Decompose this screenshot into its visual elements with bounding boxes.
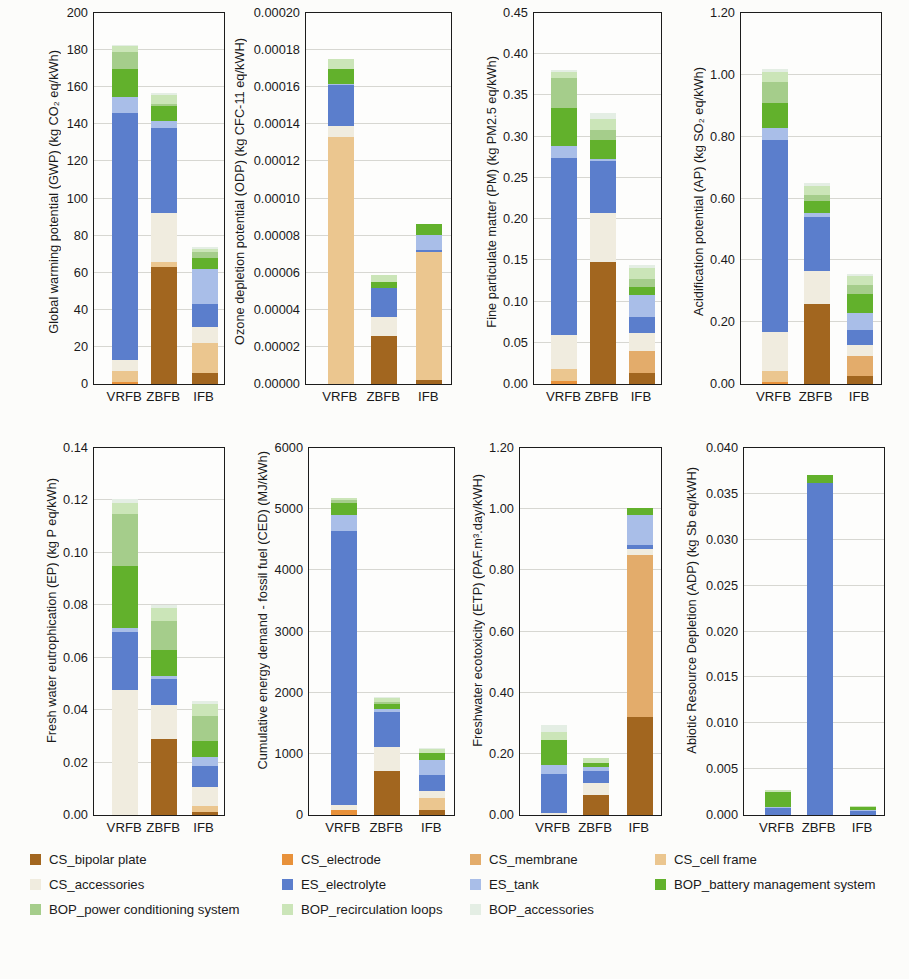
- x-axis-labels: VRFBZBFBIFB: [533, 385, 660, 407]
- bar-vrfb: [541, 448, 567, 815]
- legend-label: ES_tank: [489, 877, 539, 892]
- segment-bop-battery-management-system: [765, 792, 791, 807]
- segment-es-electrolyte: [328, 85, 354, 126]
- segment-cs-bipolar-plate: [192, 373, 218, 384]
- y-tick-label: 120: [67, 153, 88, 168]
- segment-bop-recirculation-loops: [371, 275, 397, 282]
- y-tick-label: 0.40: [710, 252, 735, 267]
- y-tick-label: 2000: [275, 684, 303, 699]
- legend-swatch-icon: [470, 904, 481, 915]
- bar-zbfb: [151, 13, 177, 384]
- segment-bop-accessories: [541, 725, 567, 733]
- y-axis-ticks: 0100020003000400050006000: [272, 447, 308, 814]
- x-axis-labels: VRFBZBFBIFB: [743, 816, 883, 838]
- x-tick-label-zbfb: ZBFB: [799, 389, 833, 404]
- y-axis-label: Global warming potential (GWP) (kg CO₂ e…: [45, 50, 62, 334]
- segment-bop-power-conditioning-system: [762, 82, 788, 104]
- segment-bop-recirculation-loops: [328, 59, 354, 68]
- y-axis-ticks: 0.000.200.400.600.801.001.20: [487, 447, 519, 814]
- y-axis-label: Fresh water eutrophication (EP) (kg P eq…: [43, 478, 60, 743]
- legend-swatch-icon: [30, 879, 41, 890]
- legend-swatch-icon: [30, 854, 41, 865]
- legend-column: CS_bipolar plateCS_accessoriesBOP_power …: [30, 852, 282, 917]
- segment-bop-recirculation-loops: [151, 95, 177, 104]
- bar-vrfb: [331, 448, 357, 815]
- segment-bop-recirculation-loops: [112, 503, 138, 513]
- bar-vrfb: [112, 448, 138, 815]
- segment-bop-power-conditioning-system: [629, 279, 655, 286]
- segment-cs-accessories: [541, 813, 567, 815]
- segment-bop-battery-management-system: [416, 224, 442, 235]
- bar-zbfb: [590, 13, 616, 384]
- bar-zbfb: [374, 448, 400, 815]
- bar-zbfb: [371, 13, 397, 384]
- x-axis-labels: VRFBZBFBIFB: [519, 816, 660, 838]
- bar-vrfb: [551, 13, 577, 384]
- segment-cs-accessories: [583, 783, 609, 795]
- segment-bop-recirculation-loops: [192, 704, 218, 716]
- segment-cs-bipolar-plate: [371, 336, 397, 384]
- x-tick-label-ifb: IFB: [849, 389, 870, 404]
- segment-es-electrolyte: [765, 808, 791, 815]
- segment-es-electrolyte: [112, 632, 138, 691]
- x-tick-label-zbfb: ZBFB: [146, 820, 180, 835]
- y-tick-label: 5000: [275, 501, 303, 516]
- segment-bop-battery-management-system: [112, 69, 138, 97]
- y-tick-label: 200: [67, 5, 88, 20]
- y-axis-label: Freshwater ecotoxicity (ETP) (PAF.m³.day…: [469, 474, 486, 747]
- x-tick-label-vrfb: VRFB: [322, 389, 357, 404]
- segment-cs-membrane: [627, 555, 653, 717]
- legend-swatch-icon: [470, 879, 481, 890]
- segment-es-tank: [847, 313, 873, 330]
- segment-cs-accessories: [629, 333, 655, 351]
- y-tick-label: 0.14: [63, 440, 88, 455]
- legend-swatch-icon: [282, 854, 293, 865]
- segment-cs-accessories: [192, 327, 218, 344]
- segment-es-tank: [419, 760, 445, 775]
- bar-ifb: [192, 13, 218, 384]
- bar-vrfb: [328, 13, 354, 384]
- bar-vrfb: [112, 13, 138, 384]
- legend-item-es-electrolyte: ES_electrolyte: [282, 877, 470, 892]
- y-tick-label: 0.04: [63, 702, 88, 717]
- chart-etp: Freshwater ecotoxicity (ETP) (PAF.m³.day…: [454, 407, 681, 838]
- x-tick-label-vrfb: VRFB: [759, 820, 794, 835]
- y-axis-label: Fine particulate matter (PM) (kg PM2.5 e…: [483, 56, 500, 328]
- plot-area: [519, 447, 662, 816]
- legend-item-bop-battery-management-system: BOP_battery management system: [655, 877, 876, 892]
- segment-cs-cell-frame: [551, 369, 577, 381]
- chart-ced: Cumulative energy demand - fossil fuel (…: [227, 407, 454, 838]
- y-tick-label: 0.00010: [254, 190, 300, 205]
- bar-ifb: [850, 448, 876, 815]
- legend-label: CS_electrode: [301, 852, 381, 867]
- y-tick-label: 0.40: [503, 46, 528, 61]
- segment-cs-bipolar-plate: [804, 304, 830, 384]
- y-tick-label: 0.02: [63, 754, 88, 769]
- legend: CS_bipolar plateCS_accessoriesBOP_power …: [0, 852, 909, 917]
- bar-zbfb: [807, 448, 833, 815]
- legend-swatch-icon: [470, 854, 481, 865]
- segment-cs-electrode: [331, 810, 357, 815]
- bar-ifb: [419, 448, 445, 815]
- segment-bop-battery-management-system: [151, 106, 177, 121]
- segment-cs-accessories: [374, 747, 400, 771]
- legend-swatch-icon: [655, 879, 666, 890]
- legend-item-bop-power-conditioning-system: BOP_power conditioning system: [30, 902, 282, 917]
- y-tick-label: 0.15: [503, 252, 528, 267]
- y-tick-label: 0.010: [706, 715, 738, 730]
- segment-es-electrolyte: [807, 483, 833, 815]
- segment-es-electrolyte: [583, 771, 609, 783]
- lca-impact-figure: Global warming potential (GWP) (kg CO₂ e…: [0, 0, 909, 979]
- y-tick-label: 0.00020: [254, 5, 300, 20]
- segment-bop-power-conditioning-system: [847, 285, 873, 294]
- x-tick-label-vrfb: VRFB: [546, 389, 581, 404]
- plot-area: [93, 12, 225, 385]
- y-tick-label: 0.25: [503, 169, 528, 184]
- segment-cs-accessories: [151, 213, 177, 261]
- legend-item-es-tank: ES_tank: [470, 877, 655, 892]
- segment-cs-cell-frame: [419, 798, 445, 810]
- y-tick-label: 0.08: [63, 597, 88, 612]
- segment-es-electrolyte: [850, 811, 876, 815]
- legend-label: BOP_recirculation loops: [301, 902, 442, 917]
- legend-item-cs-bipolar-plate: CS_bipolar plate: [30, 852, 282, 867]
